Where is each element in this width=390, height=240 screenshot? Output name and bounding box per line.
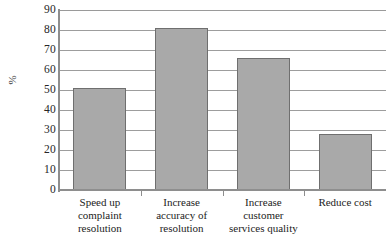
y-axis-tick-label: 0 [22,184,56,195]
x-axis-category-label: Increasecustomerservices quality [223,196,305,236]
x-axis-category-label: Increaseaccuracy ofresolution [141,196,223,236]
category-label-line: customer [223,209,305,222]
y-axis-title: % [0,68,24,92]
category-label-line: resolution [141,222,223,235]
gridline [59,70,386,71]
bar [73,88,126,190]
category-label-line: Increase [223,196,305,209]
bar [155,28,208,190]
bar-chart: % 9080706050403020100 Speed upcomplaintr… [0,0,390,240]
gridline [59,50,386,51]
y-axis-tick-labels: 9080706050403020100 [22,0,56,200]
y-axis-tick-label: 80 [22,24,56,35]
y-axis-tick-label: 40 [22,104,56,115]
y-axis-tick-label: 60 [22,64,56,75]
y-axis-tick-label: 20 [22,144,56,155]
category-label-line: Increase [141,196,223,209]
bar [319,134,372,190]
y-axis-tick-label: 10 [22,164,56,175]
y-axis-tick-label: 30 [22,124,56,135]
x-axis-tick [223,191,224,196]
y-axis-line [58,9,60,192]
x-axis-tick [304,191,305,196]
x-axis-category-labels: Speed upcomplaintresolutionIncreaseaccur… [59,196,386,240]
category-label-line: resolution [59,222,141,235]
x-axis-category-label: Reduce cost [304,196,386,209]
x-axis-category-label: Speed upcomplaintresolution [59,196,141,236]
y-axis-tick-label: 50 [22,84,56,95]
gridline [59,10,386,11]
category-label-line: complaint [59,209,141,222]
y-axis-tick-label: 90 [22,4,56,15]
bar [237,58,290,190]
category-label-line: Speed up [59,196,141,209]
y-axis-tick-label: 70 [22,44,56,55]
category-label-line: accuracy of [141,209,223,222]
gridline [59,30,386,31]
category-label-line: services quality [223,222,305,235]
x-axis-tick [141,191,142,196]
category-label-line: Reduce cost [304,196,386,209]
plot-area [59,10,386,190]
